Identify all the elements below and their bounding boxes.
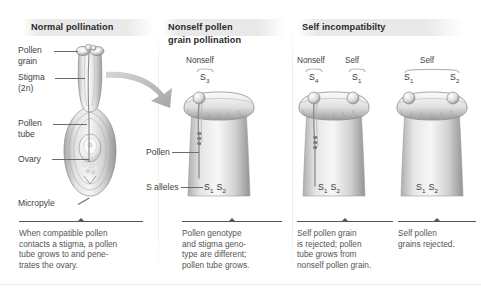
nonself-top-label-panel2: Nonself [186, 56, 214, 67]
caption-self-incompatibility-partial: Self pollen grain is rejected; pollen tu… [297, 221, 393, 270]
caption-text: Pollen genotype and stigma geno- type ar… [182, 228, 282, 270]
self-top-label-panel4: Self [420, 56, 434, 67]
stigma-genotype-panel4: S1 S2 [416, 182, 438, 194]
caption-text: Self pollen grain is rejected; pollen tu… [297, 228, 393, 270]
caption-self-incompatibility-full: Self pollen grains rejected. [398, 221, 476, 249]
leader-stigma [55, 78, 85, 79]
label-ovary: Ovary [18, 154, 41, 165]
caption-rule [19, 221, 143, 222]
caption-text: When compatible pollen contacts a stigma… [19, 228, 143, 270]
transition-arrow-icon [104, 68, 182, 110]
label-micropyle: Micropyle [18, 198, 55, 209]
panel-title-self-incompatibility: Self incompatibilty [302, 21, 386, 34]
caption-rule [398, 221, 476, 222]
pollination-figure: Normal pollination Nonself pollen grain … [0, 0, 481, 290]
leader-pollen-grain [54, 51, 78, 52]
label-pollen-grain: Pollen grain [18, 45, 42, 66]
panel-title-normal-pollination: Normal pollination [31, 21, 113, 34]
figure-bottom-rule [0, 284, 481, 285]
leader-s-alleles-panel2 [181, 187, 203, 188]
stigma-genotype-panel3: S1 S2 [318, 182, 340, 194]
label-pollen-panel2: Pollen [146, 147, 170, 158]
label-s-alleles-panel2: S alleles [146, 182, 178, 193]
pollen-grain-allele-s1-panel4: S1 [404, 72, 414, 84]
stigma-illustration-panel4 [391, 86, 473, 196]
nonself-top-label-panel3: Nonself [297, 56, 325, 67]
pollen-grain-allele-s1-panel3: S1 [352, 72, 362, 84]
label-stigma: Stigma (2n) [18, 72, 45, 93]
leader-pollen-tube [53, 124, 87, 125]
stigma-illustration-panel2 [178, 86, 260, 196]
caption-normal-pollination: When compatible pollen contacts a stigma… [19, 221, 143, 270]
pollen-grain-allele-s2-panel4: S2 [450, 72, 460, 84]
leader-ovary [52, 159, 89, 160]
stigma-illustration-panel3 [293, 86, 375, 196]
caption-nonself-pollination: Pollen genotype and stigma geno- type ar… [182, 221, 282, 270]
stigma-genotype-panel2: S1 S2 [204, 182, 226, 194]
pollen-grain-allele-s3: S3 [200, 72, 210, 84]
label-pollen-tube: Pollen tube [18, 118, 42, 139]
pollen-grain-allele-s4-panel3: S4 [309, 72, 319, 84]
leader-pollen-panel2 [172, 152, 199, 153]
caption-text: Self pollen grains rejected. [398, 228, 476, 249]
panel-title-nonself-pollination: Nonself pollen grain pollination [168, 21, 241, 46]
caption-rule [297, 221, 393, 222]
caption-rule [182, 221, 282, 222]
self-top-label-panel3: Self [345, 56, 359, 67]
